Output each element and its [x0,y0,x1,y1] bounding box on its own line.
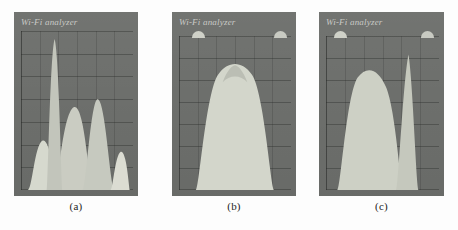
signal-area-main-dome [196,64,274,190]
phone-screenshot-a: Wi-Fi analyzer [14,12,138,196]
ap-marker-left-icon [192,31,205,38]
ap-marker-strip-c [326,29,439,38]
ap-marker-strip-b [179,29,291,38]
panel-caption-b: (b) [172,200,296,212]
phone-screenshot-c: Wi-Fi analyzer [319,12,444,196]
ap-marker-right-icon [274,31,287,38]
panel-caption-a: (a) [14,200,138,212]
phone-screenshot-b: Wi-Fi analyzer [172,12,296,196]
app-title-a: Wi-Fi analyzer [21,17,78,28]
signal-area-network-3 [83,99,114,190]
signal-area-network-5 [111,152,130,190]
spectrum-plot-a [21,31,133,190]
panel-caption-c: (c) [319,200,444,212]
ap-marker-left-icon [334,31,347,38]
signal-area-broad-dome [337,70,403,190]
spectrum-plot-c [326,36,439,190]
signal-area-network-1 [47,39,63,190]
signal-area-narrow-spike [396,54,419,190]
signal-curves-c [326,36,439,190]
signal-curves-b [179,36,291,190]
ap-marker-right-icon [421,31,434,38]
figure-panel-group: Wi-Fi analyzer [0,0,458,230]
spectrum-plot-b [179,36,291,190]
signal-curves-a [21,31,133,190]
app-title-b: Wi-Fi analyzer [179,17,236,28]
app-title-c: Wi-Fi analyzer [326,17,383,28]
